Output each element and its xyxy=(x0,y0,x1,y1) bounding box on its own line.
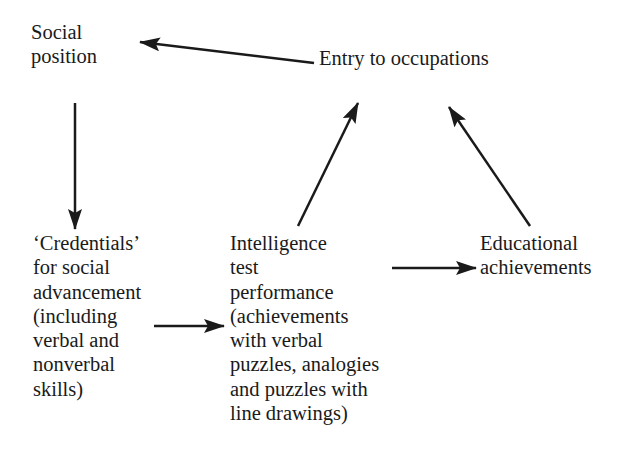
node-line: line drawings) xyxy=(230,401,379,425)
node-line: performance xyxy=(230,280,379,304)
node-line: test xyxy=(230,255,379,279)
node-intelligence-test-performance: Intelligence test performance (achieveme… xyxy=(230,231,379,425)
arrow-entry-to-social xyxy=(140,42,314,63)
node-line: advancement xyxy=(33,280,141,304)
node-line: Entry to occupations xyxy=(319,46,489,70)
node-line: skills) xyxy=(33,377,141,401)
node-line: (including xyxy=(33,304,141,328)
node-line: puzzles, analogies xyxy=(230,352,379,376)
node-line: achievements xyxy=(480,255,592,279)
node-line: and puzzles with xyxy=(230,377,379,401)
node-line: Intelligence xyxy=(230,231,379,255)
node-educational-achievements: Educational achievements xyxy=(480,231,592,280)
node-line: verbal and xyxy=(33,328,141,352)
node-line: Educational xyxy=(480,231,592,255)
node-line: Social xyxy=(31,20,97,44)
node-line: ‘Credentials’ xyxy=(33,231,141,255)
node-line: nonverbal xyxy=(33,352,141,376)
arrow-intelligence-to-entry xyxy=(298,103,358,226)
node-social-position: Social position xyxy=(31,20,97,69)
node-line: for social xyxy=(33,255,141,279)
node-line: with verbal xyxy=(230,328,379,352)
node-line: position xyxy=(31,44,97,68)
node-credentials: ‘Credentials’ for social advancement (in… xyxy=(33,231,141,401)
node-entry-to-occupations: Entry to occupations xyxy=(319,46,489,70)
node-line: (achievements xyxy=(230,304,379,328)
arrow-educational-to-entry xyxy=(449,107,530,226)
